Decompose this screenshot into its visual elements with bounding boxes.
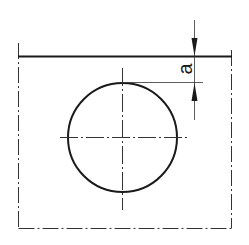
dimension-label: a [174,63,196,75]
arrow-down-icon [192,38,198,56]
technical-drawing: a [0,0,249,245]
arrow-up-icon [192,83,198,101]
